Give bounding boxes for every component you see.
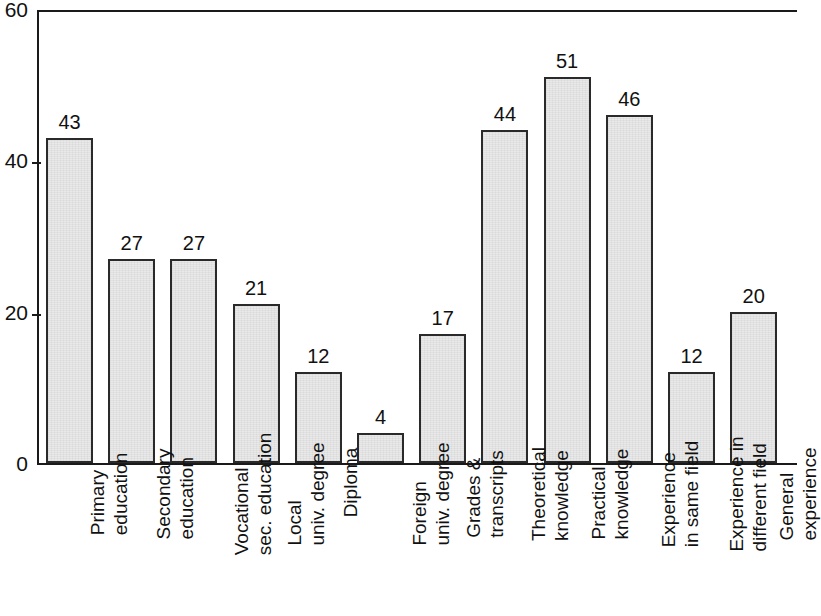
plot-area-frame: 43272721124174451461220 (37, 10, 797, 465)
bar-value-label: 44 (481, 104, 528, 124)
y-axis-tick-label: 0 (16, 453, 28, 474)
x-axis-category-label: Vocationalsec. education (168, 471, 215, 613)
bar-value-label: 46 (606, 89, 653, 109)
bar-value-label: 4 (357, 407, 404, 427)
bar-value-label: 17 (419, 308, 466, 328)
bar-value-label: 20 (730, 286, 777, 306)
x-axis-category-label: Foreignuniv. degree (355, 471, 402, 613)
bar[interactable] (46, 138, 93, 463)
bar-value-label: 27 (170, 233, 217, 253)
x-axis-category-label: Theoreticalknowledge (479, 471, 526, 613)
bar-value-label: 27 (108, 233, 155, 253)
y-axis-tick-mark (32, 162, 41, 164)
x-axis-category-label: Practicalknowledge (542, 471, 589, 613)
bar-value-label: 43 (46, 112, 93, 132)
bar[interactable] (481, 130, 528, 463)
x-axis-category-label-line: General (775, 448, 798, 541)
y-axis-tick-label: 40 (5, 150, 28, 171)
bar[interactable] (108, 259, 155, 463)
bar-value-label: 12 (295, 346, 342, 366)
x-axis-category-label: Localuniv. degree (231, 471, 278, 613)
bar[interactable] (357, 433, 404, 463)
bar-value-label: 21 (233, 278, 280, 298)
x-axis-category-label-text: Generalexperience (775, 448, 821, 541)
y-axis-tick-mark (32, 314, 41, 316)
x-axis-category-label: Experiencein same field (604, 471, 651, 613)
bars-layer: 43272721124174451461220 (39, 12, 797, 463)
y-axis-tick-label: 20 (5, 302, 28, 323)
bar[interactable] (606, 115, 653, 463)
bar[interactable] (170, 259, 217, 463)
x-axis-category-label: Experience indifferent field (666, 471, 713, 613)
x-axis-category-label: Secondaryeducation (106, 471, 153, 613)
x-axis-category-label: Diploma (293, 471, 340, 613)
y-axis-tick-label: 60 (5, 0, 28, 20)
bar-value-label: 12 (668, 346, 715, 366)
y-axis-tick-labels: 0204060 (0, 0, 33, 480)
x-axis-category-label: Primaryeducation (44, 471, 91, 613)
x-axis-category-label-line: experience (798, 448, 821, 541)
x-axis-category-label: Generalexperience (728, 471, 775, 613)
x-axis-category-labels: PrimaryeducationSecondaryeducationVocati… (37, 467, 797, 616)
x-axis-category-label: Grades &transcripts (417, 471, 464, 613)
bar-value-label: 51 (544, 51, 591, 71)
bar[interactable] (544, 77, 591, 463)
